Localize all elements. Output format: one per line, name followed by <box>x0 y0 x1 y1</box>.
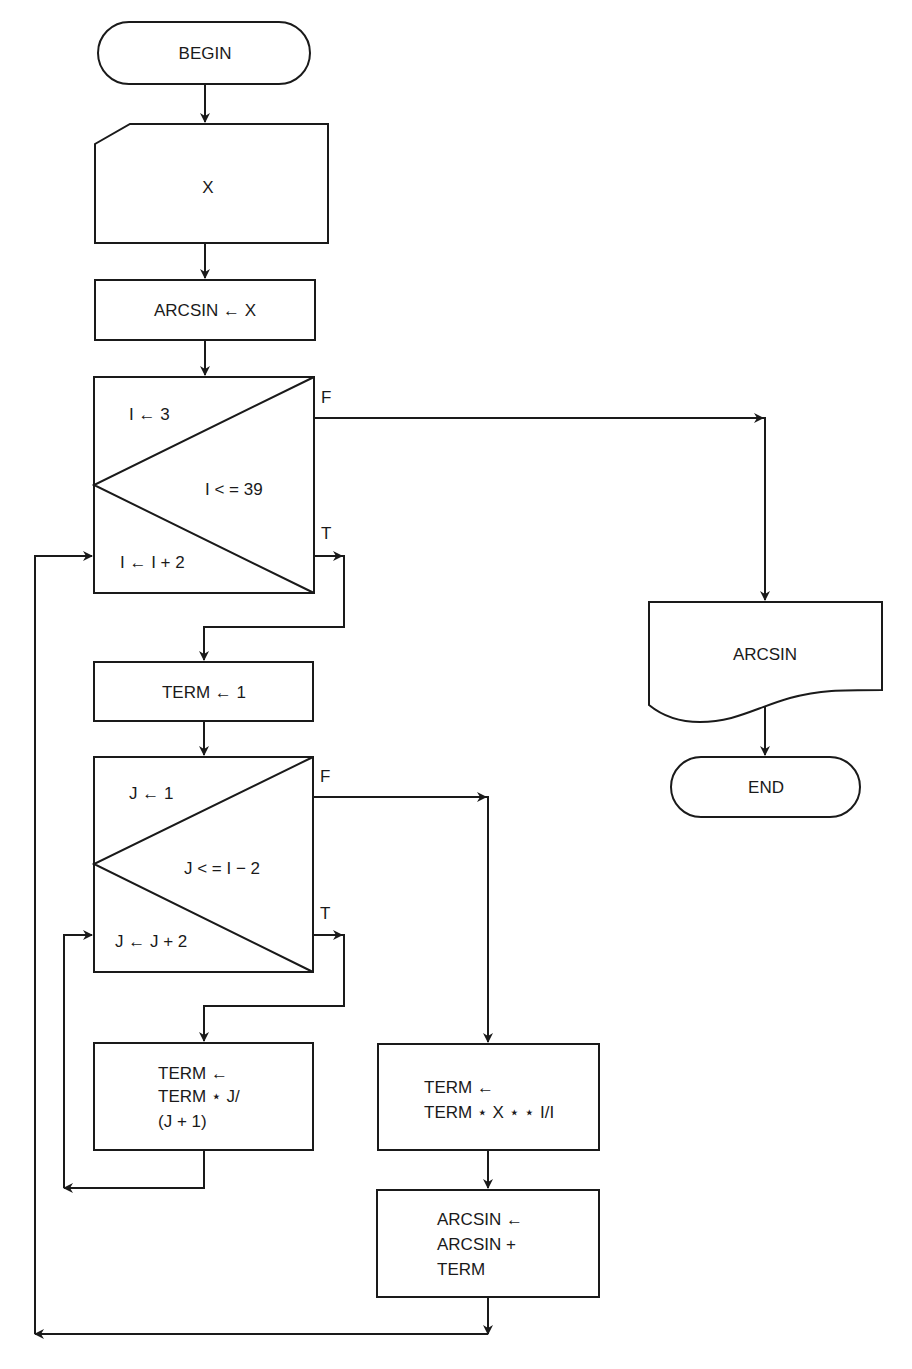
end-label: END <box>748 776 784 799</box>
loop-j-increment-label: J ← J + 2 <box>115 930 187 953</box>
loop-i-init-label: I ← 3 <box>129 403 170 426</box>
term-update-x-line1: TERM ← <box>424 1076 494 1099</box>
loop-i-false-label: F <box>321 386 331 409</box>
loop-i-true-label: T <box>321 522 331 545</box>
term-update-j-line2: TERM ⋆ J/ <box>158 1085 240 1108</box>
init-term-label: TERM ← 1 <box>162 681 246 704</box>
term-update-j-line1: TERM ← <box>158 1062 228 1085</box>
loop-j-init-label: J ← 1 <box>129 782 173 805</box>
edge-loop-i-false <box>314 418 765 600</box>
arcsin-update-line3: TERM <box>437 1258 485 1281</box>
begin-label: BEGIN <box>179 42 232 65</box>
loop-j-condition-label: J < = I − 2 <box>184 857 260 880</box>
loop-j-false-label: F <box>320 765 330 788</box>
edge-term-j-return-up <box>64 935 92 1188</box>
term-update-x-line2: TERM ⋆ X ⋆ ⋆ I/I <box>424 1101 554 1124</box>
loop-i-condition-label: I < = 39 <box>205 478 263 501</box>
init-arcsin-label: ARCSIN ← X <box>154 299 256 322</box>
flowchart-canvas <box>0 0 912 1369</box>
term-update-j-line3: (J + 1) <box>158 1110 207 1133</box>
arcsin-update-line2: ARCSIN + <box>437 1233 516 1256</box>
edge-term-j-return <box>64 1150 204 1188</box>
output-arcsin-label: ARCSIN <box>733 643 797 666</box>
loop-j-true-label: T <box>320 902 330 925</box>
input-x-label: X <box>202 176 213 199</box>
loop-i-increment-label: I ← I + 2 <box>120 551 185 574</box>
arcsin-update-line1: ARCSIN ← <box>437 1208 523 1231</box>
